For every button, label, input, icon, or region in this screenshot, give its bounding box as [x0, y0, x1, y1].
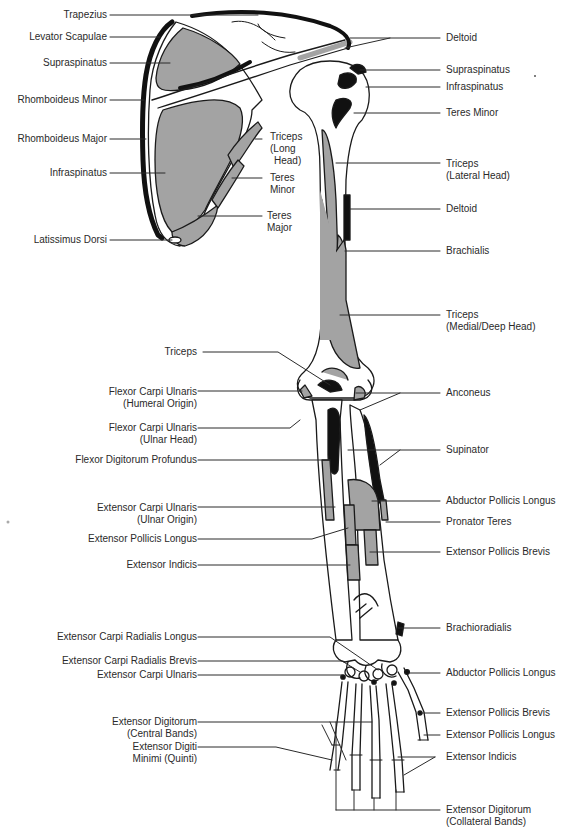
- label-ecu-ulnar-origin: Extensor Carpi Ulnaris (Ulnar Origin): [97, 502, 197, 526]
- label-epl-forearm: Extensor Pollicis Longus: [88, 533, 197, 545]
- label-triceps-elbow: Triceps: [165, 346, 197, 358]
- label-pronator-teres: Pronator Teres: [446, 516, 511, 528]
- label-supraspinatus-left: Supraspinatus: [43, 57, 107, 69]
- label-apl-forearm: Abductor Pollicis Longus: [446, 495, 556, 507]
- label-line-1: Extensor Carpi Ulnaris: [97, 502, 197, 514]
- label-line-1: Triceps: [446, 158, 510, 170]
- label-triceps-long-head: Triceps (Long Head): [270, 131, 302, 167]
- label-infraspinatus-right: Infraspinatus: [446, 81, 503, 93]
- label-line-2: (Central Bands): [112, 728, 197, 740]
- label-line-2: (Lateral Head): [446, 170, 510, 182]
- label-teres-minor-right: Teres Minor: [446, 107, 498, 119]
- label-fcu-ulnar-head: Flexor Carpi Ulnaris (Ulnar Head): [109, 422, 197, 446]
- label-line-2: Minor: [270, 184, 295, 196]
- label-anconeus: Anconeus: [446, 387, 490, 399]
- label-epb-forearm: Extensor Pollicis Brevis: [446, 546, 550, 558]
- label-line-1: Extensor Digitorum: [112, 716, 197, 728]
- label-line-1: Extensor Digitorum: [446, 804, 531, 816]
- label-triceps-lateral-head: Triceps (Lateral Head): [446, 158, 510, 182]
- label-deltoid-top: Deltoid: [446, 32, 477, 44]
- hand: [330, 640, 428, 798]
- label-fcu-humeral: Flexor Carpi Ulnaris (Humeral Origin): [109, 386, 197, 410]
- forearm: [312, 400, 404, 640]
- label-ecrb: Extensor Carpi Radialis Brevis: [62, 655, 197, 667]
- label-brachioradialis: Brachioradialis: [446, 622, 512, 634]
- label-triceps-medial-head: Triceps (Medial/Deep Head): [446, 309, 536, 333]
- label-apl-hand: Abductor Pollicis Longus: [446, 667, 556, 679]
- label-line-2: (Collateral Bands): [446, 816, 531, 828]
- label-teres-minor-inner: Teres Minor: [270, 172, 295, 196]
- label-line-1: Flexor Carpi Ulnaris: [109, 386, 197, 398]
- label-ei-hand: Extensor Indicis: [446, 751, 517, 763]
- label-latissimus-dorsi: Latissimus Dorsi: [34, 234, 107, 246]
- label-line-1: Triceps: [446, 309, 536, 321]
- label-infraspinatus-left: Infraspinatus: [50, 167, 107, 179]
- label-line-3: Head): [270, 155, 302, 167]
- label-line-2: (Long: [270, 143, 302, 155]
- label-line-1: Teres: [270, 172, 295, 184]
- label-line-1: Triceps: [270, 131, 302, 143]
- label-edm: Extensor Digiti Minimi (Quinti): [133, 741, 197, 765]
- label-line-2: Major: [267, 222, 292, 234]
- label-deltoid-humerus: Deltoid: [446, 203, 477, 215]
- label-ed-collateral-bands: Extensor Digitorum (Collateral Bands): [446, 804, 531, 828]
- label-line-1: Extensor Digiti: [133, 741, 197, 753]
- label-supinator: Supinator: [446, 444, 489, 456]
- label-ei-forearm: Extensor Indicis: [126, 559, 197, 571]
- label-rhomboideus-minor: Rhomboideus Minor: [18, 94, 108, 106]
- label-teres-major: Teres Major: [267, 210, 292, 234]
- label-supraspinatus-right: Supraspinatus: [446, 64, 510, 76]
- label-ed-central-bands: Extensor Digitorum (Central Bands): [112, 716, 197, 740]
- label-epl-hand: Extensor Pollicis Longus: [446, 729, 555, 741]
- label-brachialis: Brachialis: [446, 245, 489, 257]
- label-levator-scapulae: Levator Scapulae: [29, 31, 107, 43]
- label-fdp: Flexor Digitorum Profundus: [75, 454, 197, 466]
- label-line-1: Flexor Carpi Ulnaris: [109, 422, 197, 434]
- label-line-2: (Humeral Origin): [109, 398, 197, 410]
- label-trapezius: Trapezius: [63, 9, 107, 21]
- label-ecrl: Extensor Carpi Radialis Longus: [57, 631, 197, 643]
- label-epb-hand: Extensor Pollicis Brevis: [446, 707, 550, 719]
- label-line-2: (Medial/Deep Head): [446, 321, 536, 333]
- label-rhomboideus-major: Rhomboideus Major: [18, 133, 108, 145]
- label-line-2: (Ulnar Origin): [97, 514, 197, 526]
- label-line-2: Minimi (Quinti): [133, 753, 197, 765]
- humerus: [290, 61, 374, 400]
- label-ecu-hand: Extensor Carpi Ulnaris: [97, 669, 197, 681]
- label-line-2: (Ulnar Head): [109, 434, 197, 446]
- label-line-1: Teres: [267, 210, 292, 222]
